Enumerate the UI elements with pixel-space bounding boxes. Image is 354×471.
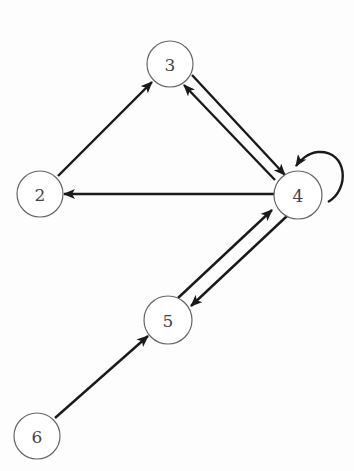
edge-6-to-5 [55,336,148,418]
node-label: 3 [165,55,176,75]
node-label: 2 [35,185,46,205]
edge-3-to-4 [192,75,285,175]
node-5: 5 [144,296,192,344]
node-4: 4 [274,171,322,219]
node-6: 6 [14,413,60,459]
node-2: 2 [17,171,63,217]
edge-4-to-5 [191,216,287,306]
node-label: 6 [32,427,43,447]
node-label: 4 [293,186,304,206]
node-3: 3 [147,41,193,87]
node-label: 5 [163,311,174,331]
edge-2-to-3 [58,82,152,176]
edge-4-to-3 [184,85,275,180]
edge-5-to-4 [178,210,272,298]
graph-canvas: 2 3 4 5 6 [0,0,354,471]
